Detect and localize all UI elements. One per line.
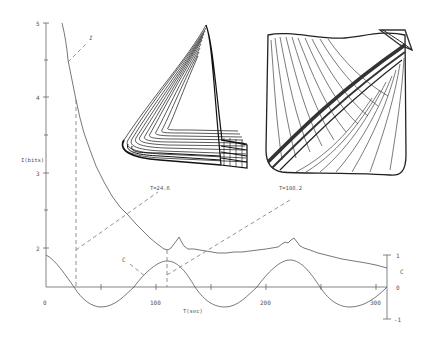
x-axis-label: T(sec): [183, 308, 203, 314]
y-axis-label-left: I(bits): [21, 157, 44, 163]
x-tick-100: 100: [150, 299, 161, 306]
y-tick-4: 4: [36, 94, 40, 101]
y-tick-2: 2: [36, 245, 40, 252]
y-axis-label-right: C: [400, 268, 404, 275]
right-tick-0: 0: [396, 284, 400, 291]
phase-portrait-inset-tau2: [266, 30, 412, 175]
right-tick-minus1: -1: [394, 316, 402, 323]
left-y-axis: [43, 23, 49, 287]
tau2-label: T=108.2: [279, 185, 302, 191]
curve-C-label: C: [122, 256, 126, 263]
curve-I-label: I: [89, 34, 93, 41]
tau1-pointer: [76, 192, 158, 250]
I-label-pointer: [68, 42, 88, 62]
x-tick-200: 200: [260, 299, 271, 306]
C-label-pointer: [130, 264, 146, 277]
phase-portrait-inset-tau1: [123, 25, 248, 168]
mutual-information-chart: 5 4 3 2 I(bits) 0 100 200 300 T(sec) 1 0…: [0, 0, 432, 340]
right-tick-1: 1: [396, 252, 400, 259]
y-tick-3: 3: [36, 170, 40, 177]
y-tick-5: 5: [36, 20, 40, 27]
correlation-curve: [46, 255, 387, 307]
tau1-label: T=24.6: [150, 185, 170, 191]
x-tick-0: 0: [43, 299, 47, 306]
tau2-pointer: [167, 200, 290, 275]
x-axis: [46, 284, 387, 290]
